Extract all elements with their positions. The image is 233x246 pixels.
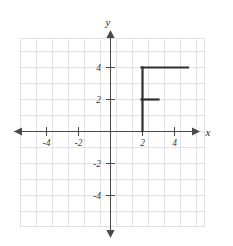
y-tick-label-2: 2 xyxy=(96,95,101,105)
y-tick-label-4: 4 xyxy=(96,63,101,73)
x-tick-label-neg2: -2 xyxy=(75,138,83,148)
y-axis-arrow-up xyxy=(106,30,114,38)
y-tick-label-neg4: -4 xyxy=(93,191,101,201)
graph-svg: -4 -2 2 4 4 2 -2 -4 x y xyxy=(0,0,233,246)
coordinate-plane-figure: -4 -2 2 4 4 2 -2 -4 x y xyxy=(0,0,233,246)
y-axis-label: y xyxy=(105,16,111,28)
y-tick-label-neg2: -2 xyxy=(93,159,101,169)
y-axis-arrow-down xyxy=(106,230,114,238)
x-tick-label-4: 4 xyxy=(172,138,177,148)
x-tick-label-2: 2 xyxy=(140,138,145,148)
x-axis-label: x xyxy=(205,126,211,138)
y-axis xyxy=(106,30,114,238)
x-axis xyxy=(14,127,200,135)
x-axis-arrow-left xyxy=(14,127,22,135)
x-tick-label-neg4: -4 xyxy=(43,138,51,148)
